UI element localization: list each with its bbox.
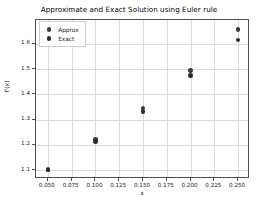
y-axis-label: f'(x) bbox=[3, 65, 10, 109]
y-tick-label: 1.1 bbox=[8, 166, 30, 172]
y-tick-mark bbox=[32, 169, 35, 170]
data-point-exact bbox=[93, 139, 98, 144]
gridline-horizontal bbox=[36, 94, 248, 95]
data-point-exact bbox=[141, 109, 146, 114]
gridline-horizontal bbox=[36, 120, 248, 121]
x-tick-label: 0.250 bbox=[222, 182, 252, 188]
y-tick-label: 1.5 bbox=[8, 65, 30, 71]
legend-marker-exact-icon bbox=[47, 36, 51, 40]
y-tick-label: 1.2 bbox=[8, 140, 30, 146]
gridline-horizontal bbox=[36, 69, 248, 70]
y-tick-mark bbox=[32, 93, 35, 94]
x-tick-mark bbox=[213, 178, 214, 181]
y-tick-mark bbox=[32, 43, 35, 44]
legend-label-exact: Exact bbox=[58, 36, 74, 42]
data-point-exact bbox=[236, 38, 241, 43]
x-tick-mark bbox=[118, 178, 119, 181]
data-point-approx bbox=[236, 27, 241, 32]
x-tick-mark bbox=[190, 178, 191, 181]
legend-marker-approx-icon bbox=[47, 27, 51, 31]
legend-item-exact: Exact bbox=[44, 34, 79, 43]
y-tick-mark bbox=[32, 144, 35, 145]
y-tick-label: 1.6 bbox=[8, 39, 30, 45]
chart-figure: Approximate and Exact Solution using Eul… bbox=[0, 0, 258, 200]
x-tick-mark bbox=[47, 178, 48, 181]
chart-title: Approximate and Exact Solution using Eul… bbox=[0, 5, 258, 14]
data-point-exact bbox=[188, 73, 193, 78]
chart-legend: Approx Exact bbox=[39, 21, 86, 47]
legend-item-approx: Approx bbox=[44, 25, 79, 34]
x-tick-mark bbox=[71, 178, 72, 181]
gridline-horizontal bbox=[36, 145, 248, 146]
data-point-exact bbox=[46, 168, 51, 173]
x-tick-mark bbox=[166, 178, 167, 181]
x-tick-mark bbox=[94, 178, 95, 181]
x-axis-label: x bbox=[35, 189, 249, 196]
x-tick-mark bbox=[142, 178, 143, 181]
y-tick-mark bbox=[32, 119, 35, 120]
y-tick-mark bbox=[32, 68, 35, 69]
y-tick-label: 1.4 bbox=[8, 90, 30, 96]
gridline-horizontal bbox=[36, 170, 248, 171]
x-tick-mark bbox=[237, 178, 238, 181]
legend-label-approx: Approx bbox=[58, 27, 78, 33]
y-tick-label: 1.3 bbox=[8, 115, 30, 121]
data-point-approx bbox=[188, 68, 193, 73]
